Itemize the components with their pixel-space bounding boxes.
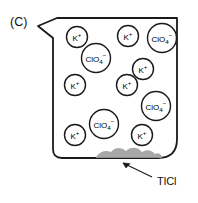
panel-label: (C) — [10, 15, 27, 29]
ion-cation-K: K+ — [65, 125, 86, 146]
ion-cation-K: K+ — [117, 75, 138, 96]
ion-anion-ClO4: ClO4− — [82, 44, 111, 73]
ion-cation-K: K+ — [132, 125, 153, 146]
ion-anion-ClO4: ClO4− — [148, 24, 177, 53]
precipitate-label: TlCl — [157, 175, 177, 187]
ion-cation-K: K+ — [67, 27, 88, 48]
ion-anion-ClO4: ClO4− — [142, 92, 171, 121]
ion-cation-K: K+ — [133, 59, 154, 80]
ion-anion-ClO4: ClO4− — [90, 110, 119, 139]
precipitate-base-shadow — [96, 157, 162, 158]
figure-panel-c: (C) TlCl K+K+ClO4−ClO4−K+K+K+ClO4−ClO4−K… — [0, 0, 198, 203]
ion-cation-K: K+ — [118, 26, 139, 47]
beaker-diagram: (C) TlCl K+K+ClO4−ClO4−K+K+K+ClO4−ClO4−K… — [0, 0, 198, 203]
ion-cation-K: K+ — [65, 75, 86, 96]
